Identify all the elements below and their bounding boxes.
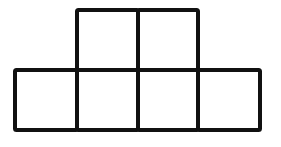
top-row-square-2 <box>138 10 198 70</box>
bottom-row-square-3 <box>138 70 198 130</box>
square-net-diagram <box>0 0 281 147</box>
top-row-square-1 <box>77 10 138 70</box>
bottom-row-square-4 <box>198 70 260 130</box>
bottom-row-square-2 <box>77 70 138 130</box>
bottom-row-square-1 <box>15 70 77 130</box>
